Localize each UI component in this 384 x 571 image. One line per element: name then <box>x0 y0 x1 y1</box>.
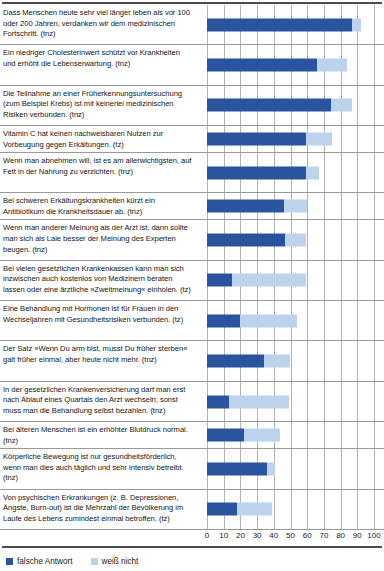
chart-row: Von psychischen Erkrankungen (z. B. Depr… <box>0 490 384 530</box>
bar-segment-falsche-antwort <box>207 59 317 72</box>
row-label: Wenn man anderer Meinung als der Arzt is… <box>0 220 197 259</box>
bar-segment-weiss-nicht <box>331 99 353 112</box>
row-label: Die Teilnahme an einer Früherkennungsunt… <box>0 86 197 125</box>
x-axis-tick-label: 40 <box>269 530 278 542</box>
row-plot-area <box>197 301 384 340</box>
x-axis-tick-label: 90 <box>353 530 362 542</box>
row-plot-area <box>197 5 384 44</box>
chart-legend: falsche Antwortweiß nicht <box>6 557 150 566</box>
x-axis-tick-label: 50 <box>286 530 295 542</box>
bar-segment-falsche-antwort <box>207 314 240 327</box>
bar-segment-falsche-antwort <box>207 18 352 31</box>
bar-segment-falsche-antwort <box>207 462 267 475</box>
bar-segment-falsche-antwort <box>207 166 306 179</box>
stacked-bar <box>197 429 384 442</box>
row-label: Dass Menschen heute sehr viel länger leb… <box>0 5 197 44</box>
bar-segment-weiss-nicht <box>306 166 319 179</box>
bar-segment-weiss-nicht <box>306 133 333 146</box>
x-axis-tick-label: 0 <box>205 530 209 542</box>
x-axis-tick-label: 20 <box>236 530 245 542</box>
legend-swatch-icon <box>6 558 13 565</box>
row-plot-area <box>197 153 384 192</box>
bar-segment-falsche-antwort <box>207 355 264 368</box>
legend-item: weiß nicht <box>91 557 139 566</box>
top-rule <box>2 2 382 4</box>
row-plot-area <box>197 261 384 300</box>
chart-row: Bei vielen gesetzlichen Krankenkassen ka… <box>0 261 384 301</box>
x-axis-tick-label: 10 <box>219 530 228 542</box>
bar-segment-weiss-nicht <box>232 274 305 287</box>
legend-label: falsche Antwort <box>17 557 73 566</box>
bar-segment-weiss-nicht <box>240 314 297 327</box>
chart-row: Bei älteren Menschen ist ein erhöhter Bl… <box>0 422 384 449</box>
chart-row: Vitamin C hat keinen nachweisbaren Nutze… <box>0 126 384 153</box>
bar-segment-weiss-nicht <box>317 59 347 72</box>
bar-segment-falsche-antwort <box>207 200 284 213</box>
x-axis-tick-label: 30 <box>253 530 262 542</box>
row-label: Wenn man abnehmen will, ist es am allerw… <box>0 153 197 192</box>
stacked-bar <box>197 503 384 516</box>
row-label: Bei älteren Menschen ist ein erhöhter Bl… <box>0 422 197 448</box>
bar-segment-falsche-antwort <box>207 99 331 112</box>
x-axis-tick-label: 80 <box>336 530 345 542</box>
bar-segment-weiss-nicht <box>267 462 275 475</box>
chart-row: Wenn man anderer Meinung als der Arzt is… <box>0 220 384 260</box>
row-label: Der Satz »Wenn Du arm bist, musst Du frü… <box>0 341 197 380</box>
x-axis-tick-label: 60 <box>303 530 312 542</box>
chart-row: Die Teilnahme an einer Früherkennungsunt… <box>0 86 384 126</box>
stacked-bar <box>197 99 384 112</box>
row-label: Vitamin C hat keinen nachweisbaren Nutze… <box>0 126 197 152</box>
stacked-bar <box>197 18 384 31</box>
stacked-bar <box>197 395 384 408</box>
chart-rows: Dass Menschen heute sehr viel länger leb… <box>0 5 384 530</box>
stacked-bar <box>197 274 384 287</box>
bar-segment-falsche-antwort <box>207 395 229 408</box>
row-label: Von psychischen Erkrankungen (z. B. Depr… <box>0 490 197 529</box>
row-plot-area <box>197 220 384 259</box>
row-plot-area <box>197 422 384 448</box>
x-axis-tick-label: 100 <box>367 530 380 542</box>
bar-segment-weiss-nicht <box>229 395 289 408</box>
stacked-bar <box>197 355 384 368</box>
chart-row: Körperliche Bewegung ist nur gesundheits… <box>0 449 384 489</box>
stacked-bar <box>197 59 384 72</box>
row-plot-area <box>197 193 384 219</box>
bar-segment-weiss-nicht <box>352 18 360 31</box>
row-label: Bei schweren Erkältungskrankheiten kürzt… <box>0 193 197 219</box>
row-label: Bei vielen gesetzlichen Krankenkassen ka… <box>0 261 197 300</box>
chart-row: Dass Menschen heute sehr viel länger leb… <box>0 5 384 45</box>
row-plot-area <box>197 126 384 152</box>
bar-segment-weiss-nicht <box>285 234 305 247</box>
stacked-bar <box>197 133 384 146</box>
chart-row: Eine Behandlung mit Hormonen ist für Fra… <box>0 301 384 341</box>
row-plot-area <box>197 490 384 529</box>
chart-row: In der gesetzlichen Krankenversicherung … <box>0 382 384 422</box>
legend-item: falsche Antwort <box>6 557 73 566</box>
chart-row: Bei schweren Erkältungskrankheiten kürzt… <box>0 193 384 220</box>
row-plot-area <box>197 382 384 421</box>
bar-segment-falsche-antwort <box>207 133 306 146</box>
stacked-bar <box>197 200 384 213</box>
row-label: In der gesetzlichen Krankenversicherung … <box>0 382 197 421</box>
bar-segment-weiss-nicht <box>264 355 291 368</box>
axis-rule <box>2 546 382 548</box>
legend-label: weiß nicht <box>102 557 139 566</box>
row-label: Eine Behandlung mit Hormonen ist für Fra… <box>0 301 197 340</box>
row-plot-area <box>197 449 384 488</box>
row-label: Körperliche Bewegung ist nur gesundheits… <box>0 449 197 488</box>
stacked-bar-chart: Dass Menschen heute sehr viel länger leb… <box>0 0 384 571</box>
row-plot-area <box>197 45 384 84</box>
row-label: Ein niedriger Cholesterinwert schützt vo… <box>0 45 197 84</box>
chart-row: Ein niedriger Cholesterinwert schützt vo… <box>0 45 384 85</box>
stacked-bar <box>197 314 384 327</box>
bar-segment-weiss-nicht <box>284 200 307 213</box>
stacked-bar <box>197 234 384 247</box>
stacked-bar <box>197 462 384 475</box>
chart-row: Wenn man abnehmen will, ist es am allerw… <box>0 153 384 193</box>
bar-segment-falsche-antwort <box>207 234 285 247</box>
stacked-bar <box>197 166 384 179</box>
chart-row: Der Satz »Wenn Du arm bist, musst Du frü… <box>0 341 384 381</box>
bar-segment-weiss-nicht <box>244 429 281 442</box>
bar-segment-weiss-nicht <box>237 503 272 516</box>
x-axis-tick-label: 70 <box>319 530 328 542</box>
